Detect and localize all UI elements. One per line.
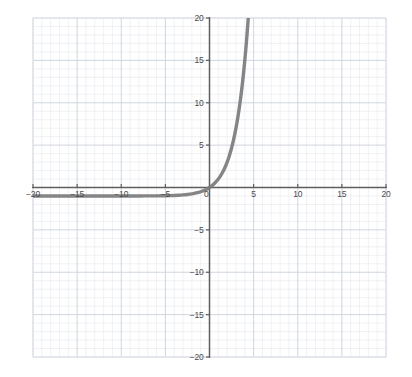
x-tick-label: −15 bbox=[70, 190, 84, 199]
x-tick-label: −5 bbox=[161, 190, 170, 199]
y-tick-label: 10 bbox=[194, 99, 203, 108]
y-tick-label: −15 bbox=[190, 310, 204, 319]
x-tick-label: −20 bbox=[26, 190, 40, 199]
y-tick-label: 20 bbox=[194, 14, 203, 23]
x-tick-label: 15 bbox=[337, 190, 346, 199]
y-tick-label: −20 bbox=[190, 353, 204, 362]
graph-figure: −20−15−10−505101520−20−15−10−55101520 bbox=[0, 0, 412, 377]
x-tick-label: 5 bbox=[251, 190, 256, 199]
y-tick-label: 15 bbox=[194, 56, 203, 65]
x-tick-label: 10 bbox=[293, 190, 302, 199]
x-tick-label: 0 bbox=[204, 190, 209, 199]
y-tick-label: −5 bbox=[194, 226, 203, 235]
y-tick-label: −10 bbox=[190, 268, 204, 277]
x-tick-label: 20 bbox=[381, 190, 390, 199]
x-tick-label: −10 bbox=[114, 190, 128, 199]
y-tick-label: 5 bbox=[199, 141, 204, 150]
